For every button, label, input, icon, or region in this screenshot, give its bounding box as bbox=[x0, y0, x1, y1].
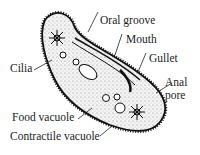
label-mouth: Mouth bbox=[126, 34, 157, 46]
label-anal-pore-line2: pore bbox=[165, 90, 185, 102]
contractile-vacuole-posterior bbox=[129, 104, 145, 120]
label-anal-pore-line1: Anal bbox=[165, 77, 187, 89]
label-cilia: Cilia bbox=[10, 63, 32, 75]
label-oral-groove: Oral groove bbox=[100, 15, 155, 27]
label-gullet: Gullet bbox=[149, 53, 178, 65]
contractile-vacuole-anterior bbox=[49, 30, 65, 46]
label-food-vacuole: Food vacuole bbox=[12, 112, 74, 124]
label-contractile-vacuole: Contractile vacuole bbox=[10, 131, 100, 143]
